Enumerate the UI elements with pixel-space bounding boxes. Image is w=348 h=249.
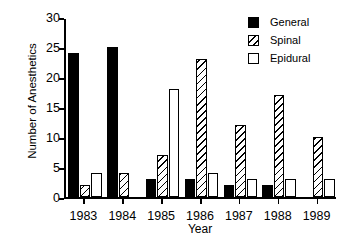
bar-spinal-1989: [313, 137, 324, 197]
empty-white-swatch-icon: [248, 53, 259, 64]
y-tick-label: 0: [53, 191, 60, 206]
legend-label: Spinal: [270, 34, 301, 46]
bar-spinal-1988: [274, 95, 285, 197]
bar-spinal-1987: [235, 125, 246, 197]
x-tick-mark: [278, 199, 280, 204]
bar-general-1987: [224, 185, 235, 197]
x-tick-label: 1987: [225, 209, 253, 223]
bar-spinal-1986: [196, 59, 207, 197]
bar-general-1984: [107, 47, 118, 197]
legend-label: General: [270, 16, 309, 28]
x-tick-mark: [161, 199, 163, 204]
x-tick-mark: [239, 199, 241, 204]
x-tick-label: 1983: [70, 209, 98, 223]
x-tick-mark: [83, 199, 85, 204]
bar-epidural-1988: [285, 179, 296, 197]
bar-epidural-1983: [91, 173, 102, 197]
x-axis-title: Year: [64, 222, 336, 236]
y-tick-label: 5: [53, 161, 60, 176]
y-axis-title: Number of Anesthetics: [26, 6, 38, 196]
bar-spinal-1984: [119, 173, 130, 197]
legend-item-general: General: [248, 14, 310, 30]
solid-black-swatch-icon: [248, 17, 259, 28]
y-tick-label: 30: [46, 11, 60, 26]
x-tick-label: 1988: [264, 209, 292, 223]
bar-general-1985: [146, 179, 157, 197]
bar-epidural-1989: [324, 179, 335, 197]
bar-general-1988: [262, 185, 273, 197]
x-tick-label: 1989: [303, 209, 331, 223]
chart-legend: General Spinal Epidural: [248, 14, 310, 68]
bar-general-1983: [68, 53, 79, 197]
y-tick-label: 25: [46, 41, 60, 56]
bar-general-1986: [185, 179, 196, 197]
legend-item-spinal: Spinal: [248, 32, 310, 48]
x-tick-label: 1984: [108, 209, 136, 223]
bar-epidural-1986: [208, 173, 219, 197]
y-tick-label: 10: [46, 131, 60, 146]
y-tick-label: 15: [46, 101, 60, 116]
legend-item-epidural: Epidural: [248, 50, 310, 66]
diagonal-hatch-swatch-icon: [248, 35, 259, 46]
bar-epidural-1987: [247, 179, 258, 197]
bar-epidural-1985: [169, 89, 180, 197]
y-axis-line: [64, 19, 66, 199]
bar-spinal-1985: [157, 155, 168, 197]
y-tick-label: 20: [46, 71, 60, 86]
x-tick-mark: [200, 199, 202, 204]
x-tick-label: 1985: [147, 209, 175, 223]
bar-spinal-1983: [80, 185, 91, 197]
x-tick-mark: [317, 199, 319, 204]
x-tick-label: 1986: [186, 209, 214, 223]
legend-label: Epidural: [270, 52, 310, 64]
anesthetics-by-year-bar-chart: Number of Anesthetics 051015202530 19831…: [0, 0, 348, 249]
x-tick-mark: [122, 199, 124, 204]
